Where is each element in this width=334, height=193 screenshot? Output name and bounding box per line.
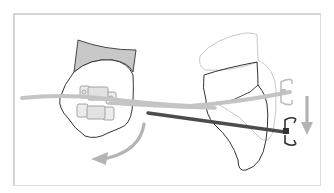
archwire-dark: [148, 113, 285, 132]
bracket-hook-dark: [283, 118, 296, 146]
tooth-moved-outline: [203, 62, 267, 170]
orthodontic-illustration: [0, 0, 334, 193]
down-arrow-head: [301, 122, 313, 135]
rotation-arrow-head: [91, 152, 108, 165]
